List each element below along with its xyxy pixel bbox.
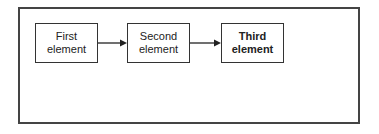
arrow-second-to-third-icon — [190, 40, 221, 47]
edges-layer — [0, 0, 379, 134]
arrow-first-to-second-icon — [98, 40, 127, 47]
